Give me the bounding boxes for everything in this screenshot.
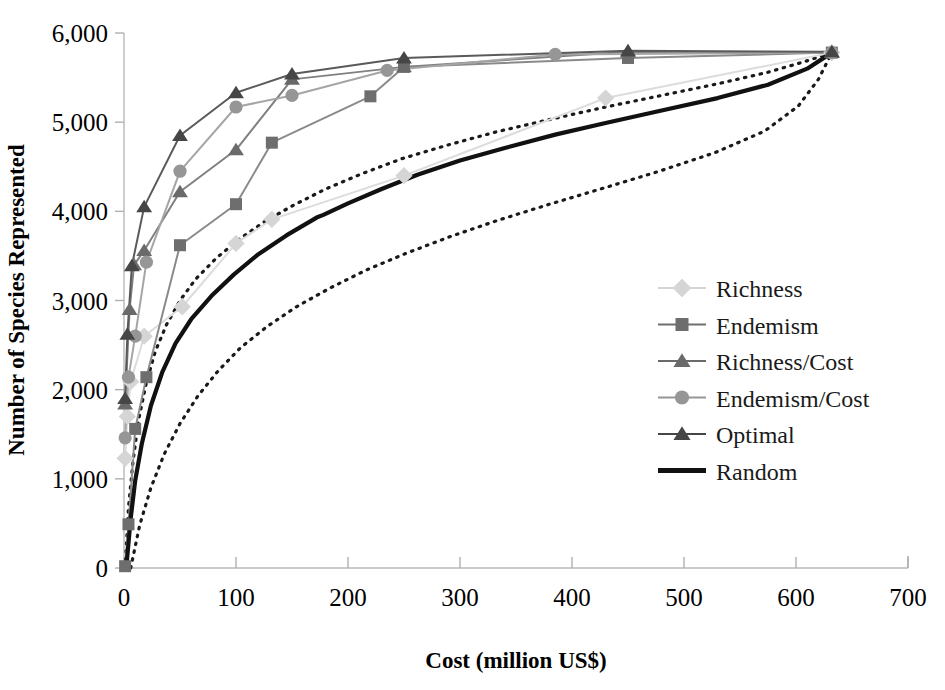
data-point-marker-circle bbox=[285, 89, 298, 102]
y-tick-label: 6,000 bbox=[52, 20, 108, 47]
y-axis-tick-labels: 01,0002,0003,0004,0005,0006,000 bbox=[52, 20, 108, 582]
data-point-marker-square bbox=[122, 518, 134, 530]
data-point-marker-circle bbox=[140, 256, 153, 269]
y-tick-label: 1,000 bbox=[52, 466, 108, 493]
random-lower-ci bbox=[131, 53, 832, 568]
data-series-group bbox=[125, 51, 832, 568]
chart-legend: RichnessEndemismRichness/CostEndemism/Co… bbox=[658, 276, 870, 485]
data-point-marker-triangle bbox=[136, 200, 152, 213]
x-tick-label: 600 bbox=[777, 584, 815, 611]
x-tick-label: 500 bbox=[665, 584, 703, 611]
x-tick-label: 0 bbox=[118, 584, 131, 611]
legend-diamond-icon bbox=[673, 279, 692, 298]
legend-item-richness-cost[interactable]: Richness/Cost bbox=[658, 349, 854, 375]
x-tick-label: 300 bbox=[441, 584, 479, 611]
chart-figure: 0100200300400500600700 01,0002,0003,0004… bbox=[0, 0, 945, 690]
legend-square-icon bbox=[676, 318, 689, 331]
data-point-marker-circle bbox=[119, 431, 132, 444]
y-tick-label: 3,000 bbox=[52, 288, 108, 315]
data-markers-group bbox=[116, 44, 840, 572]
data-point-marker-circle bbox=[173, 165, 186, 178]
x-axis-title: Cost (million US$) bbox=[425, 648, 606, 673]
series-line-random bbox=[126, 53, 832, 568]
data-point-marker-square bbox=[119, 560, 131, 572]
x-tick-label: 100 bbox=[217, 584, 255, 611]
legend-circle-icon bbox=[675, 390, 689, 404]
legend-item-endemism-cost[interactable]: Endemism/Cost bbox=[658, 386, 870, 412]
data-point-marker-triangle bbox=[136, 243, 152, 256]
data-point-marker-square bbox=[140, 371, 152, 383]
legend-item-label: Endemism/Cost bbox=[716, 386, 870, 412]
data-point-marker-triangle bbox=[228, 143, 244, 156]
x-tick-label: 700 bbox=[889, 584, 927, 611]
legend-item-label: Optimal bbox=[716, 422, 795, 448]
x-tick-label: 400 bbox=[553, 584, 591, 611]
legend-item-random[interactable]: Random bbox=[658, 459, 798, 485]
chart-canvas: 0100200300400500600700 01,0002,0003,0004… bbox=[0, 0, 945, 690]
x-tick-label: 200 bbox=[329, 584, 367, 611]
data-point-marker-circle bbox=[229, 100, 242, 113]
x-axis-tick-labels: 0100200300400500600700 bbox=[118, 584, 927, 611]
data-point-marker-square bbox=[364, 90, 376, 102]
legend-item-optimal[interactable]: Optimal bbox=[658, 422, 795, 448]
legend-item-label: Random bbox=[716, 459, 798, 485]
y-axis-title: Number of Species Represented bbox=[4, 144, 29, 456]
legend-item-endemism[interactable]: Endemism bbox=[658, 313, 819, 339]
y-tick-label: 5,000 bbox=[52, 109, 108, 136]
legend-item-label: Endemism bbox=[716, 313, 819, 339]
y-tick-label: 4,000 bbox=[52, 198, 108, 225]
data-point-marker-square bbox=[266, 137, 278, 149]
data-point-marker-triangle bbox=[228, 86, 244, 99]
data-point-marker-square bbox=[129, 423, 141, 435]
y-tick-label: 0 bbox=[96, 555, 109, 582]
data-point-marker-square bbox=[230, 198, 242, 210]
legend-item-label: Richness/Cost bbox=[716, 349, 854, 375]
data-point-marker-square bbox=[174, 239, 186, 251]
data-point-marker-circle bbox=[549, 48, 562, 61]
random-upper-ci bbox=[125, 53, 832, 568]
series-line-endemism bbox=[125, 53, 832, 567]
data-point-marker-diamond bbox=[119, 408, 136, 425]
data-point-marker-triangle bbox=[117, 392, 133, 405]
legend-item-label: Richness bbox=[716, 276, 803, 302]
data-point-marker-circle bbox=[381, 64, 394, 77]
data-point-marker-circle bbox=[122, 371, 135, 384]
legend-item-richness[interactable]: Richness bbox=[658, 276, 803, 302]
y-tick-label: 2,000 bbox=[52, 377, 108, 404]
